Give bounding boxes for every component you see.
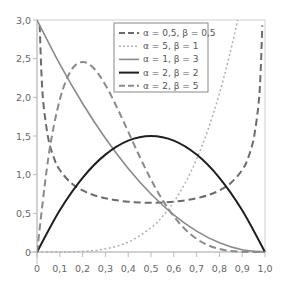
- x-tick-label: 1,0: [257, 263, 272, 274]
- x-tick-label: 0,2: [75, 263, 90, 274]
- y-tick-label: 3,0: [16, 15, 31, 26]
- x-tick-label: 0,7: [189, 263, 204, 274]
- legend: α = 0,5, β = 0,5α = 5, β = 1α = 1, β = 3…: [114, 23, 216, 92]
- legend-label: α = 0,5, β = 0,5: [143, 28, 216, 38]
- y-tick-label: 2,0: [16, 92, 31, 103]
- y-tick-label: 0,5: [16, 208, 31, 219]
- y-tick-label: 2,5: [16, 53, 31, 64]
- y-tick-label: 0: [25, 247, 31, 258]
- legend-label: α = 2, β = 2: [143, 68, 198, 78]
- y-tick-label: 1,5: [16, 131, 31, 142]
- y-tick-label: 1,0: [16, 169, 31, 180]
- x-tick-label: 0,4: [121, 263, 136, 274]
- x-axis: 00,10,20,30,40,50,60,70,80,91,0: [34, 252, 273, 274]
- x-tick-label: 0: [34, 263, 40, 274]
- legend-label: α = 1, β = 3: [143, 54, 198, 64]
- x-tick-label: 0,1: [52, 263, 67, 274]
- beta-distribution-chart: 00,51,01,52,02,53,0 00,10,20,30,40,50,60…: [0, 0, 289, 289]
- x-tick-label: 0,8: [212, 263, 227, 274]
- x-tick-label: 0,3: [98, 263, 113, 274]
- x-tick-label: 0,6: [166, 263, 181, 274]
- y-axis: 00,51,01,52,02,53,0: [16, 15, 37, 258]
- legend-label: α = 2, β = 5: [143, 81, 198, 91]
- x-tick-label: 0,9: [235, 263, 250, 274]
- legend-label: α = 5, β = 1: [143, 41, 198, 51]
- x-tick-label: 0,5: [143, 263, 158, 274]
